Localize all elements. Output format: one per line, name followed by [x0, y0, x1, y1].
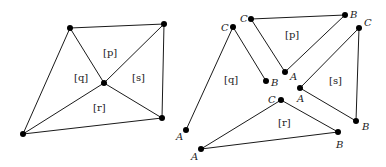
triangle-r-label-c: C	[268, 94, 276, 105]
triangle-s-vertex-c	[356, 25, 362, 31]
triangle-r-vertex-c	[278, 97, 284, 103]
diagram-canvas: [p] [q] [s] [r] C B A [q] C B A [p]	[0, 0, 386, 167]
region-label-s: [s]	[132, 72, 145, 83]
triangle-r-region-label: [r]	[278, 117, 291, 128]
right-figure: C B A [q] C B A [p] C A B [s]	[175, 9, 372, 162]
triangle-s-vertex-a	[297, 85, 303, 91]
edge-center-br	[104, 83, 162, 118]
triangle-s-label-a: A	[296, 93, 304, 104]
triangle-q-vertex-b	[263, 78, 269, 84]
triangle-p-edges	[251, 15, 345, 72]
triangle-q-label-c: C	[221, 22, 229, 33]
triangle-r-edges	[201, 100, 338, 149]
vertex-top-left	[67, 25, 73, 31]
triangle-p-label-b: B	[349, 9, 357, 20]
triangle-r: C B A [r]	[190, 94, 343, 162]
edge-top	[70, 24, 164, 28]
triangle-q-label-b: B	[270, 77, 278, 88]
left-figure: [p] [q] [s] [r]	[20, 21, 167, 137]
triangle-r-label-a: A	[190, 151, 198, 162]
triangle-s-label-b: B	[361, 121, 369, 132]
triangle-p: C B A [p]	[240, 9, 357, 82]
edge-left	[23, 28, 70, 134]
triangle-p-vertex-b	[342, 12, 348, 18]
triangle-q: C B A [q]	[175, 22, 278, 142]
triangle-p-vertex-c	[248, 16, 254, 22]
triangle-p-vertex-a	[282, 69, 288, 75]
triangle-p-label-a: A	[289, 71, 297, 82]
triangle-s-label-c: C	[364, 17, 372, 28]
triangle-r-vertex-a	[198, 146, 204, 152]
region-label-q: [q]	[74, 72, 88, 83]
triangle-p-label-c: C	[240, 13, 248, 24]
vertex-top-right	[161, 21, 167, 27]
triangle-s-vertex-b	[353, 118, 359, 124]
region-label-p: [p]	[103, 47, 117, 58]
triangle-q-vertex-c	[230, 24, 236, 30]
triangle-q-vertex-a	[183, 127, 189, 133]
triangle-r-vertex-b	[335, 129, 341, 135]
triangle-r-label-b: B	[335, 139, 343, 150]
triangle-q-label-a: A	[175, 131, 183, 142]
edge-right	[162, 24, 164, 118]
vertex-bottom-left	[20, 131, 26, 137]
triangle-p-region-label: [p]	[285, 29, 299, 40]
triangle-q-region-label: [q]	[224, 74, 238, 85]
region-label-r: [r]	[93, 102, 106, 113]
triangle-s-region-label: [s]	[329, 75, 342, 86]
vertex-center	[101, 80, 107, 86]
vertex-bottom-right	[159, 115, 165, 121]
